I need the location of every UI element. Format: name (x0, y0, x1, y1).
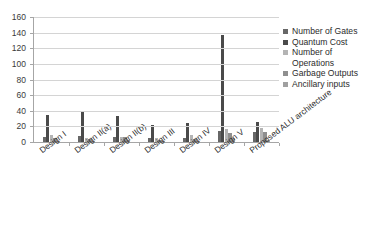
y-tick-mark (30, 33, 33, 34)
y-tick-label: 160 (12, 13, 26, 22)
y-tick-label: 100 (12, 60, 26, 69)
gridline (34, 126, 279, 127)
legend-entry[interactable]: Ancillary inputs (283, 79, 366, 90)
y-tick-label: 40 (17, 107, 26, 116)
y-tick-label: 60 (17, 91, 26, 100)
x-tick-mark (279, 143, 280, 146)
y-tick-mark (30, 80, 33, 81)
legend-entry[interactable]: Number of Operations (283, 47, 366, 68)
legend-label: Number of Gates (283, 26, 366, 37)
legend-label: Ancillary inputs (283, 79, 366, 90)
legend-swatch-icon (283, 50, 288, 55)
x-axis-category-labels: Design IDesign II(a)Design II(b)Design I… (0, 145, 366, 245)
legend-label: Number of Operations (283, 47, 366, 68)
gridline (34, 80, 279, 81)
y-tick-mark (30, 64, 33, 65)
legend-entry[interactable]: Garbage Outputs (283, 68, 366, 79)
chart-legend: Number of GatesQuantum CostNumber of Ope… (283, 26, 366, 90)
gridline (34, 111, 279, 112)
x-tick-mark (104, 143, 105, 146)
x-tick-mark (139, 143, 140, 146)
y-tick-mark (30, 95, 33, 96)
x-tick-mark (174, 143, 175, 146)
y-tick-mark (30, 48, 33, 49)
gridline (34, 95, 279, 96)
legend-entry[interactable]: Number of Gates (283, 26, 366, 37)
legend-entry[interactable]: Quantum Cost (283, 37, 366, 48)
legend-label: Garbage Outputs (283, 68, 366, 79)
gridline (34, 48, 279, 49)
legend-swatch-icon (283, 82, 288, 87)
y-tick-mark (30, 126, 33, 127)
y-tick-mark (30, 17, 33, 18)
legend-swatch-icon (283, 71, 288, 76)
gridline (34, 33, 279, 34)
x-tick-mark (209, 143, 210, 146)
gridline (34, 64, 279, 65)
legend-swatch-icon (283, 29, 288, 34)
x-tick-mark (69, 143, 70, 146)
legend-swatch-icon (283, 40, 288, 45)
legend-label: Quantum Cost (283, 37, 366, 48)
bar-chart: 160140120100806040200 Design IDesign II(… (0, 0, 366, 252)
y-tick-label: 140 (12, 29, 26, 38)
gridline (34, 17, 279, 18)
y-tick-mark (30, 111, 33, 112)
y-tick-mark (30, 142, 33, 143)
x-tick-mark (244, 143, 245, 146)
y-tick-label: 20 (17, 122, 26, 131)
y-tick-label: 80 (17, 76, 26, 85)
y-tick-label: 120 (12, 44, 26, 53)
y-axis-tick-labels: 160140120100806040200 (0, 14, 30, 142)
